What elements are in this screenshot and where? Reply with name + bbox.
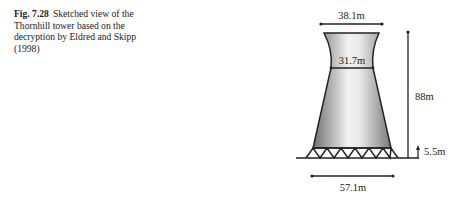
- top-diameter-dimension: 38.1m: [319, 10, 383, 26]
- base-diameter-dimension: 57.1m: [310, 174, 394, 193]
- base-diameter-label: 57.1m: [340, 182, 367, 193]
- column-height-label: 5.5m: [424, 146, 445, 157]
- column-height-dimension: 5.5m: [416, 145, 445, 158]
- throat-diameter-label: 31.7m: [339, 55, 366, 66]
- tower-diagram: 38.1m 31.7m 88m 5.5m 57.1m: [0, 0, 465, 202]
- top-diameter-label: 38.1m: [338, 10, 365, 21]
- height-dimension: 88m: [406, 30, 433, 158]
- height-label: 88m: [415, 91, 434, 102]
- tower-shell: [313, 33, 391, 148]
- support-columns: [306, 148, 398, 158]
